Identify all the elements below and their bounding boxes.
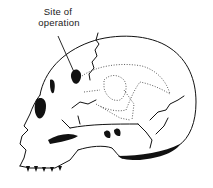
ventricle-outline <box>82 64 170 110</box>
operation-site-marker <box>71 70 81 84</box>
skull-diagram: Site of operation <box>0 0 213 188</box>
zygomatic-arch <box>70 124 138 128</box>
annotation-label-line1: Site of <box>38 6 78 17</box>
mandible <box>78 146 122 158</box>
orbit-shading <box>35 98 46 118</box>
leader-line <box>58 36 74 72</box>
annotation-label-line2: operation <box>34 17 84 28</box>
maxilla-line <box>20 150 78 168</box>
skull-illustration <box>0 0 213 188</box>
